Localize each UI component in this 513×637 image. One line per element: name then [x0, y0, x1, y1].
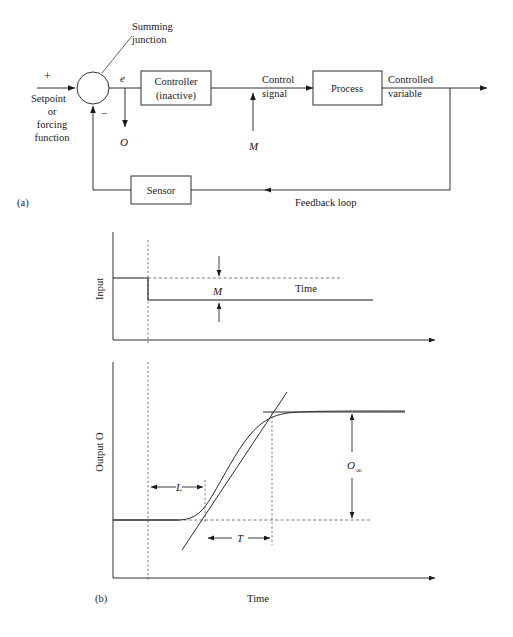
output-chart-y-label: Output O — [94, 432, 105, 472]
input-chart-y-label: Input — [94, 278, 105, 300]
final-value-label: O — [347, 459, 355, 471]
plus-sign-label: + — [44, 69, 51, 83]
output-chart-x-label: Time — [247, 593, 269, 604]
process-block-label: Process — [331, 83, 363, 94]
output-o-label: O — [120, 136, 128, 148]
summing-junction-leader-line — [102, 36, 132, 73]
setpoint-label-line1: Setpoint — [31, 93, 66, 104]
summing-junction-circle[interactable] — [77, 72, 109, 104]
manual-signal-label: M — [248, 140, 259, 152]
control-signal-label-line2: signal — [262, 88, 287, 99]
input-step-curve — [113, 278, 373, 300]
summing-junction-label-line2: junction — [131, 34, 167, 45]
figure-canvas: Summing junction + − Setpoint or forcing… — [0, 0, 513, 637]
block-diagram-group: Summing junction + − Setpoint or forcing… — [17, 21, 487, 209]
setpoint-label-line2: or — [48, 106, 57, 117]
dead-time-label: L — [175, 481, 182, 493]
final-value-subscript-label: ∞ — [356, 466, 362, 475]
controller-block-label-line1: Controller — [154, 76, 198, 87]
summing-junction-label-line1: Summing — [132, 21, 174, 32]
panel-a-tag: (a) — [17, 197, 29, 209]
time-constant-label: T — [237, 532, 244, 544]
error-signal-label: e — [120, 72, 125, 84]
minus-sign-label: − — [101, 106, 108, 120]
sensor-block-label: Sensor — [147, 185, 176, 196]
input-chart-group: Input M Time — [94, 232, 435, 345]
controlled-variable-label-line2: variable — [388, 88, 422, 99]
input-step-magnitude-label: M — [212, 285, 223, 297]
controlled-variable-label-line1: Controlled — [388, 74, 434, 85]
figure-root: Summing junction + − Setpoint or forcing… — [0, 0, 513, 637]
output-tangent-line — [182, 392, 287, 550]
setpoint-label-line4: function — [35, 132, 71, 143]
controller-block-label-line2: (inactive) — [156, 90, 197, 102]
output-chart-group: L T O ∞ Output O Time (b) — [94, 362, 435, 605]
input-chart-x-label: Time — [295, 283, 317, 294]
setpoint-label-line3: forcing — [37, 119, 68, 130]
control-signal-label-line1: Control — [262, 74, 294, 85]
feedback-loop-label: Feedback loop — [295, 197, 357, 208]
panel-b-tag: (b) — [95, 593, 108, 605]
